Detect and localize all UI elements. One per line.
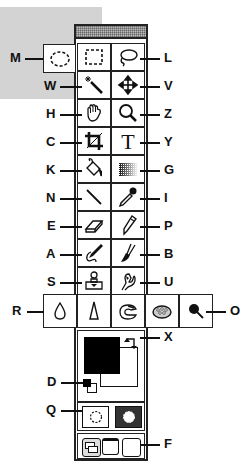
- label-A: A: [46, 247, 55, 261]
- label-Q: Q: [46, 403, 56, 417]
- standard-mode-icon: [88, 410, 104, 424]
- tool-sponge[interactable]: [145, 294, 179, 328]
- label-Z: Z: [164, 107, 172, 121]
- line-icon: [83, 186, 105, 208]
- magic-wand-icon: [83, 74, 105, 96]
- sharpen-icon: [83, 300, 105, 322]
- type-icon: T: [117, 130, 139, 152]
- tool-rubber-stamp[interactable]: [77, 267, 111, 295]
- lasso-icon: [117, 46, 139, 68]
- blur-icon: [49, 300, 71, 322]
- quick-mask-icon: [121, 410, 137, 424]
- label-P: P: [164, 219, 173, 233]
- tool-elliptical-marquee[interactable]: [43, 44, 76, 73]
- toolbox-title-bar[interactable]: [76, 26, 146, 39]
- foreground-color-swatch[interactable]: [84, 337, 120, 374]
- eraser-icon: [83, 214, 105, 236]
- label-B: B: [164, 247, 173, 261]
- tool-line[interactable]: [77, 183, 111, 211]
- label-I: I: [164, 191, 168, 205]
- tool-move[interactable]: [111, 71, 145, 99]
- tool-airbrush[interactable]: [77, 239, 111, 267]
- tool-type[interactable]: T: [111, 127, 145, 155]
- color-section: [77, 330, 145, 402]
- tool-pencil[interactable]: [111, 211, 145, 239]
- label-D: D: [47, 375, 56, 389]
- label-Y: Y: [164, 135, 173, 149]
- paintbrush-icon: [117, 242, 139, 264]
- rect-marquee-icon: [83, 46, 105, 68]
- label-C: C: [46, 135, 55, 149]
- label-E: E: [47, 219, 56, 233]
- burn-icon: [185, 300, 207, 322]
- eyedropper-icon: [117, 186, 139, 208]
- label-V: V: [164, 79, 173, 93]
- screen-mode-section: [77, 433, 145, 459]
- tool-blur[interactable]: [43, 294, 77, 328]
- paint-bucket-icon: [83, 158, 105, 180]
- label-O: O: [230, 304, 240, 318]
- sponge-icon: [151, 300, 173, 322]
- label-L: L: [164, 51, 172, 65]
- tool-gradient[interactable]: [111, 155, 145, 183]
- full-screen-menubar-button[interactable]: [102, 438, 119, 455]
- tool-eraser[interactable]: [77, 211, 111, 239]
- pencil-icon: [117, 214, 139, 236]
- tool-rect-marquee[interactable]: [77, 43, 111, 71]
- standard-screen-button[interactable]: [82, 438, 101, 457]
- quick-mask-button[interactable]: [115, 406, 142, 428]
- tool-paintbrush[interactable]: [111, 239, 145, 267]
- elliptical-marquee-icon: [49, 48, 71, 70]
- label-N: N: [46, 191, 55, 205]
- label-G: G: [164, 163, 174, 177]
- svg-text:T: T: [121, 130, 135, 152]
- tool-magic-wand[interactable]: [77, 71, 111, 99]
- label-H: H: [46, 107, 55, 121]
- tool-paint-bucket[interactable]: [77, 155, 111, 183]
- smudge-icon: [117, 270, 139, 292]
- tool-eyedropper[interactable]: [111, 183, 145, 211]
- quick-mask-section: [77, 402, 145, 431]
- label-K: K: [46, 163, 55, 177]
- tool-lasso[interactable]: [111, 43, 145, 71]
- smudge-finger-icon: [117, 300, 139, 322]
- airbrush-icon: [83, 242, 105, 264]
- standard-mode-button[interactable]: [82, 406, 109, 428]
- tool-sharpen[interactable]: [77, 294, 111, 328]
- tool-smudge-finger[interactable]: [111, 294, 145, 328]
- swap-colors-icon[interactable]: [124, 336, 138, 350]
- default-colors-icon[interactable]: [83, 379, 97, 393]
- label-F: F: [164, 437, 172, 451]
- rubber-stamp-icon: [83, 270, 105, 292]
- label-X: X: [164, 330, 173, 344]
- label-M: M: [10, 51, 21, 65]
- label-U: U: [164, 275, 173, 289]
- label-R: R: [12, 304, 21, 318]
- gradient-icon: [117, 158, 139, 180]
- crop-icon: [83, 130, 105, 152]
- full-screen-button[interactable]: [122, 438, 141, 457]
- zoom-icon: [117, 102, 139, 124]
- tool-hand[interactable]: [77, 99, 111, 127]
- tool-smudge[interactable]: [111, 267, 145, 295]
- label-W: W: [44, 79, 56, 93]
- hand-icon: [83, 102, 105, 124]
- tool-zoom[interactable]: [111, 99, 145, 127]
- move-icon: [117, 74, 139, 96]
- label-S: S: [47, 275, 56, 289]
- tool-crop[interactable]: [77, 127, 111, 155]
